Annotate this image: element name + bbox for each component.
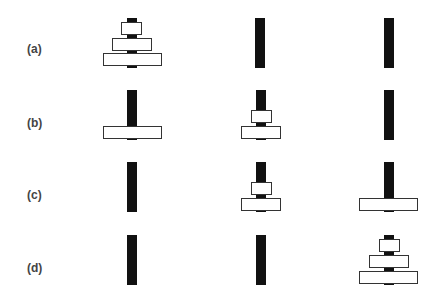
peg-3 — [384, 90, 394, 140]
row-b: (b) — [0, 90, 447, 160]
row-c: (c) — [0, 162, 447, 232]
peg-2 — [255, 18, 265, 68]
peg-3 — [384, 18, 394, 68]
disk-medium — [369, 255, 409, 268]
disk-large — [359, 198, 418, 211]
disk-medium — [112, 38, 152, 51]
disk-small — [251, 110, 272, 123]
peg-1 — [127, 235, 137, 285]
row-d: (d) — [0, 235, 447, 305]
disk-large — [359, 271, 418, 284]
disk-medium — [241, 126, 281, 139]
row-a: (a) — [0, 18, 447, 88]
disk-small — [251, 182, 272, 195]
disk-large — [103, 53, 162, 66]
row-label: (a) — [27, 42, 42, 56]
disk-medium — [241, 198, 281, 211]
disk-large — [103, 126, 162, 139]
peg-2 — [256, 235, 266, 285]
row-label: (b) — [27, 116, 42, 130]
disk-small — [379, 239, 400, 252]
row-label: (d) — [27, 261, 42, 275]
row-label: (c) — [27, 188, 42, 202]
disk-small — [121, 22, 142, 35]
peg-1 — [127, 162, 137, 212]
